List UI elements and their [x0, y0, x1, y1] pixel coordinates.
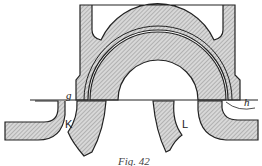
label-h: h: [244, 96, 250, 108]
housing-body: [76, 4, 240, 100]
valve-cross-section-diagram: g K L h Fig. 42: [0, 0, 262, 166]
left-elbow-port: [5, 101, 65, 140]
label-L: L: [182, 118, 188, 130]
label-g: g: [66, 89, 72, 101]
figure-caption: Fig. 42: [117, 155, 150, 166]
passage-L-wall: [153, 101, 182, 152]
flow-arrow: [226, 102, 255, 109]
label-K: K: [65, 118, 73, 130]
passage-K-wall: [68, 101, 106, 156]
